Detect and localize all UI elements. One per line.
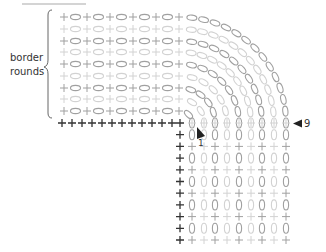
brace-icon (44, 10, 52, 118)
oval-stitch-icon (208, 84, 219, 95)
plus-stitch-icon (129, 37, 137, 45)
oval-stitch-icon (71, 73, 81, 78)
plus-stitch-icon (200, 189, 208, 197)
plus-stitch-icon (211, 236, 219, 244)
oval-stitch-icon (228, 56, 239, 66)
oval-stitch-icon (163, 61, 173, 66)
oval-stitch-icon (197, 64, 208, 73)
oval-stitch-icon (283, 223, 288, 233)
oval-stitch-icon (140, 61, 150, 66)
oval-stitch-icon (117, 49, 127, 54)
oval-stitch-icon (186, 50, 197, 57)
oval-stitch-icon (283, 130, 288, 140)
oval-stitch-icon (283, 177, 288, 187)
oval-stitch-icon (189, 223, 194, 233)
plus-stitch-icon (176, 119, 184, 127)
oval-stitch-icon (140, 108, 150, 113)
plus-stitch-icon (175, 107, 183, 115)
plus-stitch-icon (235, 236, 243, 244)
plus-stitch-icon (83, 37, 91, 45)
plus-stitch-icon (148, 119, 156, 127)
plus-stitch-icon (129, 13, 137, 21)
oval-stitch-icon (244, 96, 252, 107)
plus-stitch-icon (60, 37, 68, 45)
horizontal-border-rounds (60, 13, 183, 115)
plus-stitch-icon (235, 142, 243, 150)
plus-stitch-icon (138, 119, 146, 127)
plus-stitch-icon (60, 84, 68, 92)
oval-stitch-icon (212, 177, 217, 187)
oval-stitch-icon (236, 130, 241, 140)
oval-stitch-icon (248, 153, 253, 163)
oval-stitch-icon (163, 73, 173, 78)
oval-stitch-icon (208, 44, 219, 53)
oval-stitch-icon (255, 94, 263, 105)
oval-stitch-icon (117, 38, 127, 43)
plus-stitch-icon (83, 72, 91, 80)
plus-stitch-icon (118, 119, 126, 127)
plus-stitch-icon (83, 95, 91, 103)
annotation-rounds: rounds (10, 66, 44, 78)
plus-stitch-icon (258, 142, 266, 150)
oval-stitch-icon (234, 106, 241, 117)
oval-stitch-icon (241, 35, 252, 45)
oval-stitch-icon (216, 76, 227, 87)
oval-stitch-icon (187, 15, 198, 21)
oval-stitch-icon (271, 130, 276, 140)
oval-stitch-icon (224, 200, 229, 210)
oval-stitch-icon (71, 38, 81, 43)
plus-stitch-icon (188, 166, 196, 174)
oval-stitch-icon (250, 83, 259, 94)
round-9-label: 9 (304, 118, 310, 130)
plus-stitch-icon (235, 166, 243, 174)
plus-stitch-icon (128, 119, 136, 127)
oval-stitch-icon (224, 130, 229, 140)
oval-stitch-icon (189, 200, 194, 210)
plus-stitch-icon (282, 142, 290, 150)
plus-stitch-icon (282, 189, 290, 197)
plus-stitch-icon (176, 201, 184, 209)
plus-stitch-icon (152, 84, 160, 92)
plus-stitch-icon (60, 72, 68, 80)
oval-stitch-icon (207, 55, 218, 64)
oval-stitch-icon (189, 153, 194, 163)
plus-stitch-icon (175, 37, 183, 45)
oval-stitch-icon (276, 82, 284, 93)
oval-stitch-icon (207, 69, 218, 79)
oval-stitch-icon (247, 107, 254, 118)
oval-stitch-icon (237, 47, 248, 58)
oval-stitch-icon (271, 200, 276, 210)
oval-stitch-icon (220, 23, 231, 32)
oval-stitch-icon (259, 223, 264, 233)
oval-stitch-icon (208, 31, 219, 39)
oval-stitch-icon (236, 223, 241, 233)
oval-stitch-icon (259, 200, 264, 210)
plus-stitch-icon (83, 107, 91, 115)
plus-stitch-icon (258, 213, 266, 221)
plus-stitch-icon (129, 72, 137, 80)
round-1-label: 1 (198, 137, 204, 149)
plus-stitch-icon (188, 189, 196, 197)
plus-stitch-icon (83, 84, 91, 92)
corner-arcs (183, 15, 288, 128)
plus-stitch-icon (235, 213, 243, 221)
plus-stitch-icon (258, 166, 266, 174)
oval-stitch-icon (195, 90, 206, 100)
oval-stitch-icon (231, 28, 242, 38)
plus-stitch-icon (258, 236, 266, 244)
oval-stitch-icon (248, 177, 253, 187)
oval-stitch-icon (196, 105, 206, 116)
plus-stitch-icon (129, 84, 137, 92)
plus-stitch-icon (175, 84, 183, 92)
plus-stitch-icon (200, 213, 208, 221)
oval-stitch-icon (117, 108, 127, 113)
oval-stitch-icon (196, 51, 207, 59)
oval-stitch-icon (225, 67, 236, 78)
oval-stitch-icon (187, 74, 198, 82)
oval-stitch-icon (198, 40, 209, 48)
oval-stitch-icon (186, 39, 197, 46)
oval-stitch-icon (209, 19, 220, 27)
oval-stitch-icon (163, 96, 173, 101)
oval-stitch-icon (198, 78, 209, 88)
oval-stitch-icon (264, 84, 272, 95)
